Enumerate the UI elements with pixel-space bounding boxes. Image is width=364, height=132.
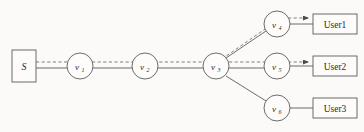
source-label: S <box>22 61 27 72</box>
node-subscript: 5 <box>279 67 282 73</box>
user-label: User1 <box>324 20 347 30</box>
node-subscript: 1 <box>82 67 85 73</box>
node-circle[interactable] <box>67 53 93 79</box>
user-node-user2[interactable]: User2 <box>313 56 357 76</box>
user-label: User2 <box>324 62 347 72</box>
node-subscript: 3 <box>217 67 221 73</box>
link-v3-v6 <box>226 76 266 101</box>
node-circle[interactable] <box>264 53 290 79</box>
diagram-canvas: S v 1 v 2 v 3 v 4 v 5 <box>0 0 364 132</box>
node-label: v <box>272 62 276 72</box>
network-diagram-figure: S v 1 v 2 v 3 v 4 v 5 <box>0 0 364 132</box>
node-label: v <box>272 20 276 30</box>
node-circle[interactable] <box>132 53 158 79</box>
node-label: v <box>75 62 79 72</box>
node-subscript: 4 <box>279 25 282 31</box>
user-node-user1[interactable]: User1 <box>313 14 357 34</box>
node-label: v <box>272 104 276 114</box>
relay-node-v4[interactable]: v 4 <box>264 11 290 37</box>
node-circle[interactable] <box>203 53 229 79</box>
user-node-user3[interactable]: User3 <box>313 98 357 118</box>
node-circle[interactable] <box>264 11 290 37</box>
relay-node-v2[interactable]: v 2 <box>132 53 158 79</box>
node-subscript: 2 <box>147 67 150 73</box>
flow-segment-v3-v4 <box>222 27 268 59</box>
link-v3-v4 <box>226 31 266 58</box>
relay-node-v6[interactable]: v 6 <box>264 95 290 121</box>
node-label: v <box>140 62 144 72</box>
relay-node-v3[interactable]: v 3 <box>203 53 229 79</box>
node-label: v <box>211 62 215 72</box>
node-circle[interactable] <box>264 95 290 121</box>
user-label: User3 <box>324 104 347 114</box>
source-node-S[interactable]: S <box>12 50 36 82</box>
node-subscript: 6 <box>279 109 282 115</box>
relay-node-v1[interactable]: v 1 <box>67 53 93 79</box>
relay-node-v5[interactable]: v 5 <box>264 53 290 79</box>
